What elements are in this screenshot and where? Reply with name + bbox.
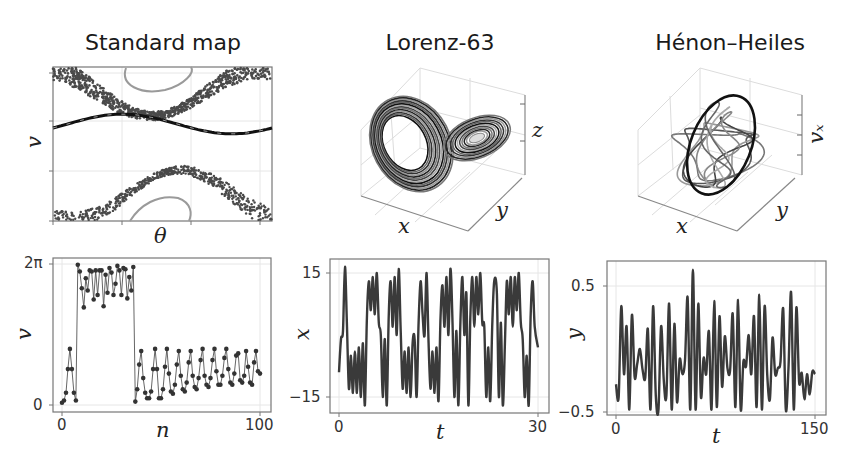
hh-3d-zlabel: vₓ <box>804 124 828 143</box>
hh-series-ylabel: y <box>562 328 586 340</box>
lz-3d-zlabel: z <box>532 118 543 142</box>
lz-series-xtick-right: 30 <box>528 418 547 436</box>
hh-3d-xlabel: x <box>676 214 688 238</box>
sm-series-xlabel: n <box>156 418 170 442</box>
sm-series-xtick-left: 0 <box>57 416 67 434</box>
standard-map-series-plot <box>49 258 271 416</box>
sm-series-ytick-bottom: 0 <box>33 396 43 414</box>
lz-3d-ylabel: y <box>496 198 508 222</box>
sm-phase-ylabel: v <box>22 136 46 148</box>
sm-series-ytick-top: 2π <box>24 254 43 272</box>
lz-series-xlabel: t <box>436 420 444 444</box>
lz-series-xtick-left: 0 <box>334 418 344 436</box>
hh-series-xtick-left: 0 <box>611 420 621 438</box>
lz-series-ylabel: x <box>290 328 314 340</box>
sm-phase-xlabel: θ <box>154 224 167 248</box>
lorenz-series-plot <box>326 259 549 417</box>
hh-3d-ylabel: y <box>776 198 788 222</box>
lz-3d-xlabel: x <box>398 214 410 238</box>
hh-series-xlabel: t <box>712 424 720 448</box>
hh-series-ytick-top: 0.5 <box>571 277 595 295</box>
lz-series-ytick-top: 15 <box>302 264 321 282</box>
hh-series-xtick-right: 150 <box>800 420 829 438</box>
sm-series-ylabel: v <box>12 328 36 340</box>
sm-series-xtick-right: 100 <box>245 416 274 434</box>
hh-series-ytick-bottom: −0.5 <box>558 403 594 421</box>
henon-heiles-series-plot <box>603 261 826 419</box>
figure-canvas <box>0 0 856 468</box>
standard-map-phase-plot <box>49 67 273 225</box>
lz-series-ytick-bottom: −15 <box>289 388 321 406</box>
